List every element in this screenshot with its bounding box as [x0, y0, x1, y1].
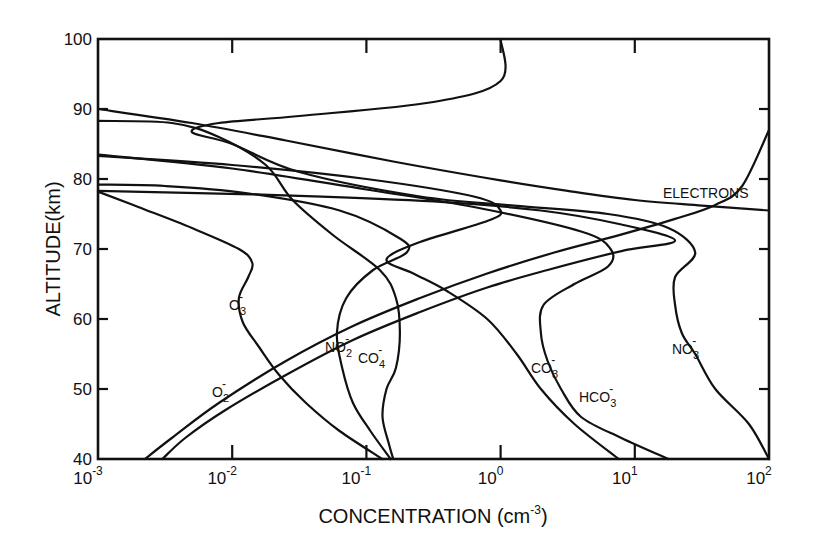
curve-o3 — [98, 192, 383, 459]
label-hco3-sup: - — [609, 382, 613, 396]
label-o2: O2- — [212, 377, 229, 404]
x-tick-label: 101 — [612, 464, 638, 488]
label-o3-sup: - — [239, 290, 243, 304]
x-axis-label-close: ) — [541, 505, 548, 527]
y-tick-label: 60 — [73, 310, 92, 329]
curves-group — [98, 39, 769, 459]
x-axis-label-exponent: -3 — [530, 503, 541, 517]
y-tick-label: 70 — [73, 240, 92, 259]
x-axis-label: CONCENTRATION (cm-3) — [318, 503, 547, 527]
label-no3-sub: 3 — [693, 349, 699, 361]
label-o3: O3- — [229, 290, 246, 317]
label-co3-base: CO — [531, 360, 552, 376]
label-hco3-base: HCO — [579, 389, 610, 405]
label-no3-base: NO — [672, 341, 693, 357]
x-tick-label: 100 — [478, 464, 504, 488]
label-o2-sub: 2 — [223, 392, 229, 404]
label-hco3-sub: 3 — [610, 397, 616, 409]
label-no2: NO2- — [325, 332, 352, 359]
x-tick-label: 10-1 — [342, 464, 372, 488]
label-co3: CO3- — [531, 353, 558, 380]
label-co4-sup: - — [378, 343, 382, 357]
label-co3-sub: 3 — [552, 368, 558, 380]
label-o3-sub: 3 — [240, 305, 246, 317]
x-tick-label: 10-2 — [207, 464, 237, 488]
label-no2-sub: 2 — [346, 347, 352, 359]
y-tick-label: 50 — [73, 380, 92, 399]
label-no2-base: NO — [325, 339, 346, 355]
label-co4-sub: 4 — [379, 358, 385, 370]
label-no3-sup: - — [692, 334, 696, 348]
label-co3-sup: - — [551, 353, 555, 367]
label-co4: CO4- — [358, 343, 385, 370]
y-tick-label: 40 — [73, 450, 92, 469]
y-tick-label: 80 — [73, 170, 92, 189]
y-tick-label: 90 — [73, 100, 92, 119]
x-tick-label: 102 — [746, 464, 772, 488]
label-o2-sup: - — [222, 377, 226, 391]
y-axis-label: ALTITUDE(km) — [42, 181, 64, 316]
label-electrons: ELECTRONS — [663, 185, 749, 201]
y-tick-label: 100 — [64, 30, 92, 49]
label-no2-sup: - — [345, 332, 349, 346]
y-tick-labels: 405060708090100 — [64, 30, 92, 469]
label-hco3: HCO3- — [579, 382, 616, 409]
label-co4-base: CO — [358, 350, 379, 366]
altitude-concentration-chart: 405060708090100 10-310-210-1100101102 AL… — [0, 0, 821, 546]
x-axis-label-main: CONCENTRATION (cm — [318, 505, 530, 527]
curve-no3 — [192, 39, 769, 459]
x-tick-labels: 10-310-210-1100101102 — [73, 464, 772, 488]
